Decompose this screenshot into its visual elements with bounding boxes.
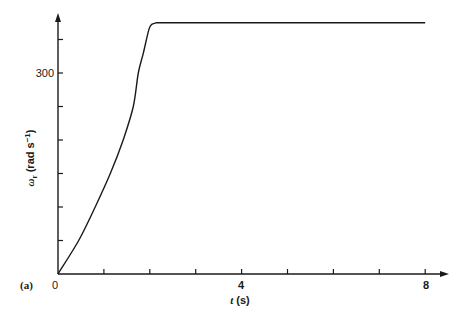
y-axis-symbol: ω [24, 178, 36, 186]
speed-time-chart: 300 0 4 8 (a) t (s) ωr (rad s−1) [0, 0, 467, 321]
panel-label: (a) [20, 279, 33, 292]
y-axis-arrow-icon [55, 13, 61, 22]
x-tick-label-8: 8 [423, 279, 429, 291]
data-series [58, 23, 425, 274]
rotor-speed-curve [58, 23, 425, 274]
x-axis-label: t (s) [230, 294, 250, 306]
x-tick-label-0: 0 [52, 279, 58, 291]
y-tick-label-300: 300 [36, 67, 54, 79]
y-axis-units: (rad s [24, 142, 36, 175]
x-axis-arrow-icon [440, 271, 449, 277]
x-tick-label-4: 4 [238, 279, 245, 291]
x-axis-units: (s) [233, 294, 250, 306]
axes [55, 13, 449, 277]
y-axis-close: ) [24, 129, 36, 133]
axis-ticks [58, 40, 425, 275]
y-axis-label: ωr (rad s−1) [23, 129, 39, 186]
